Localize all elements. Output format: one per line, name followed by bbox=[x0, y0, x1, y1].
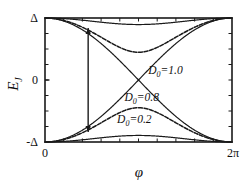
y-tick-label-top: Δ bbox=[30, 11, 38, 25]
x-tick-label-left: 0 bbox=[42, 146, 48, 160]
y-tick-label-bottom: -Δ bbox=[26, 135, 38, 149]
x-tick-label-right: 2π bbox=[227, 146, 239, 160]
y-tick-label-mid: 0 bbox=[32, 73, 38, 87]
figure-container: Δ 0 -Δ 0 2π EJ φ D0=1.0D0=0.8D0=0.2 bbox=[0, 0, 251, 185]
y-axis-title-base: E bbox=[5, 82, 21, 92]
x-axis-title: φ bbox=[135, 164, 143, 180]
y-axis-title-subscript: J bbox=[13, 77, 24, 82]
andreev-bound-state-plot: Δ 0 -Δ 0 2π EJ φ D0=1.0D0=0.8D0=0.2 bbox=[0, 0, 251, 185]
